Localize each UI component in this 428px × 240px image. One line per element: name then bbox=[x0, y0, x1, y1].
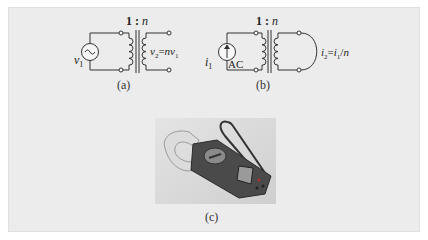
primary-coil-icon bbox=[262, 38, 266, 65]
caption-c: (c) bbox=[205, 210, 218, 225]
transformer-core-icon bbox=[268, 30, 271, 73]
panel-a-ratio: 1 : n bbox=[126, 14, 148, 28]
panel-b-ratio: 1 : n bbox=[256, 14, 278, 28]
transformer-core-icon bbox=[136, 30, 139, 73]
panel-b-source-type: AC bbox=[228, 58, 243, 70]
panel-b-output-label: i2=i1/n bbox=[321, 46, 349, 61]
secondary-coil-icon bbox=[142, 38, 146, 65]
clamp-meter-photo bbox=[155, 118, 276, 204]
short-circuit-loop bbox=[301, 33, 317, 70]
primary-coil-icon bbox=[129, 38, 133, 65]
panel-a-output-label: v2=nv1 bbox=[150, 45, 179, 60]
caption-a: (a) bbox=[117, 78, 130, 93]
caption-b: (b) bbox=[256, 78, 270, 93]
panel-b-source-label: i1 bbox=[205, 55, 212, 71]
secondary-coil-icon bbox=[274, 38, 278, 65]
